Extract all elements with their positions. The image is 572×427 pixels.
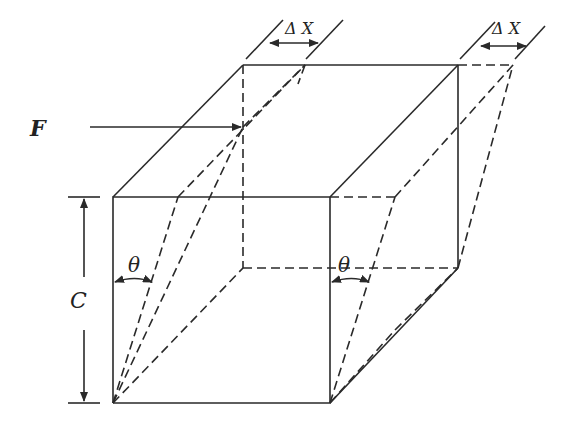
shear-diagram: F C θ θ Δ X Δ X — [0, 0, 572, 427]
angle-arc-left — [115, 279, 152, 283]
displacement-label-right: Δ X — [491, 19, 521, 38]
sheared-block — [113, 65, 513, 403]
angle-label-right: θ — [338, 253, 350, 277]
displacement-label-left: Δ X — [284, 19, 314, 38]
height-label: C — [70, 288, 87, 313]
force-label: F — [29, 115, 47, 141]
original-block — [113, 65, 458, 403]
angle-arc-right — [332, 279, 369, 283]
angle-label-left: θ — [128, 253, 140, 277]
